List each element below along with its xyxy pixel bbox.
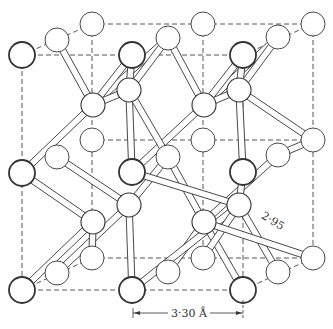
lattice-spacing-annotation: 3·30 Å <box>133 300 243 320</box>
bond-length-annotation: 2·95 <box>259 209 287 233</box>
crystal-structure-diagram: 3·30 Å 2·95 <box>0 0 333 329</box>
lattice-spacing-label: 3·30 Å <box>171 306 208 320</box>
bond-length-label: 2·95 <box>259 209 287 233</box>
